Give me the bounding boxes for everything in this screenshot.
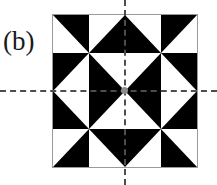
tile-r4c4 <box>161 129 197 167</box>
tile-r4c3 <box>125 129 161 167</box>
tile-r2c3 <box>125 53 161 91</box>
triangle-shape <box>161 53 197 91</box>
triangle-upper-right-icon <box>161 53 197 91</box>
panel-label: (b) <box>3 26 34 56</box>
triangle-shape <box>89 91 125 129</box>
triangle-shape <box>125 129 161 167</box>
tile-r2c1 <box>53 53 89 91</box>
tile-r3c4 <box>161 91 197 129</box>
tile-r2c2 <box>89 53 125 91</box>
triangle-shape <box>53 91 89 129</box>
triangle-upper-left-icon <box>89 91 125 129</box>
triangle-lower-left-icon <box>125 15 161 53</box>
triangle-upper-left-icon <box>125 129 161 167</box>
tile-r3c1 <box>53 91 89 129</box>
tile-r3c2 <box>89 91 125 129</box>
tile-r1c4 <box>161 15 197 53</box>
triangle-lower-right-icon <box>89 15 125 53</box>
triangle-shape <box>161 129 197 167</box>
triangle-shape <box>125 53 161 91</box>
triangle-upper-right-icon <box>125 91 161 129</box>
triangle-upper-right-icon <box>89 129 125 167</box>
triangle-shape <box>53 53 89 91</box>
triangle-lower-right-icon <box>53 129 89 167</box>
triangle-upper-left-icon <box>161 15 197 53</box>
triangle-lower-left-icon <box>53 91 89 129</box>
triangle-shape <box>89 15 125 53</box>
tile-r1c2 <box>89 15 125 53</box>
tile-r1c3 <box>125 15 161 53</box>
tile-r3c3 <box>125 91 161 129</box>
triangle-shape <box>125 15 161 53</box>
triangle-lower-left-icon <box>89 53 125 91</box>
triangle-shape <box>53 129 89 167</box>
tile-r4c2 <box>89 129 125 167</box>
triangle-shape <box>89 53 125 91</box>
triangle-shape <box>161 91 197 129</box>
triangle-shape <box>161 15 197 53</box>
triangle-lower-right-icon <box>125 53 161 91</box>
triangle-lower-right-icon <box>161 91 197 129</box>
triangle-shape <box>125 91 161 129</box>
triangle-upper-right-icon <box>53 15 89 53</box>
axis-center-point <box>121 87 128 94</box>
tile-r1c1 <box>53 15 89 53</box>
tile-r2c4 <box>161 53 197 91</box>
triangle-upper-left-icon <box>53 53 89 91</box>
tile-r4c1 <box>53 129 89 167</box>
triangle-shape <box>53 15 89 53</box>
triangle-lower-left-icon <box>161 129 197 167</box>
figure-panel: (b) <box>0 0 217 185</box>
triangle-shape <box>89 129 125 167</box>
